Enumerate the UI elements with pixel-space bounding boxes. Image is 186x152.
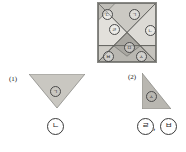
tangram-label-c: ㄷ <box>102 9 113 20</box>
right-triangle-svg <box>142 73 171 109</box>
question-2-answer-first: ㄹ <box>137 118 154 135</box>
tangram-label-b: ㄴ <box>145 25 156 36</box>
question-2-shape <box>142 73 171 109</box>
tangram-label-f: ㅂ <box>103 51 114 62</box>
tangram-label-d: ㄹ <box>109 24 120 35</box>
tangram-label-a: ㄱ <box>129 9 140 20</box>
question-2-answer-second: ㅂ <box>160 118 177 135</box>
answer-separator: , <box>153 123 156 132</box>
tangram-square-diagram: ㄷ ㄱ ㄹ ㄴ ㅁ ㅂ ㅅ <box>97 2 157 63</box>
tangram-label-g: ㅅ <box>136 51 147 62</box>
question-1-inner-label: ㄱ <box>50 86 61 97</box>
right-triangle <box>142 73 171 109</box>
question-1-answer: ㄴ <box>47 118 64 135</box>
tangram-label-e: ㅁ <box>124 42 135 53</box>
question-2-number: (2) <box>128 73 136 81</box>
question-2-inner-label: ㅅ <box>146 91 157 102</box>
question-1-number: (1) <box>9 75 17 83</box>
worksheet-page: ㄷ ㄱ ㄹ ㄴ ㅁ ㅂ ㅅ (1) ㄱ ㄴ (2) ㅅ ㄹ , ㅂ <box>0 0 186 152</box>
